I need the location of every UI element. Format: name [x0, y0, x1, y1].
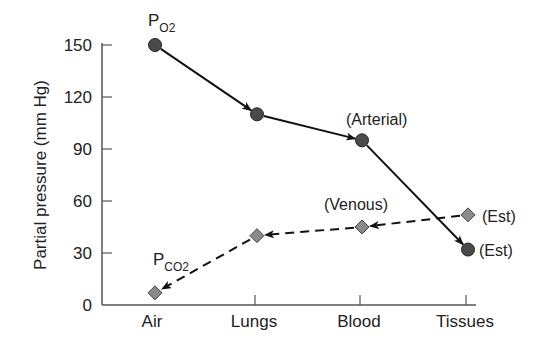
- po2-point: [251, 108, 264, 121]
- po2-point: [462, 243, 475, 256]
- pco2-point: [250, 229, 264, 243]
- po2-point: [149, 39, 162, 52]
- y-tick-label: 150: [64, 36, 92, 55]
- venous-annotation: (Venous): [324, 196, 388, 213]
- x-tick-label: Blood: [337, 312, 380, 331]
- x-tick-label: Tissues: [436, 312, 494, 331]
- po2-point: [356, 134, 369, 147]
- arterial-annotation: (Arterial): [346, 111, 407, 128]
- pco2-point: [461, 208, 475, 222]
- y-tick-label: 60: [73, 192, 92, 211]
- po2-series-label: PO2: [148, 11, 176, 35]
- pco2-point: [355, 220, 369, 234]
- pco2-series-label: PCO2: [153, 250, 189, 274]
- y-tick-label: 90: [73, 140, 92, 159]
- y-tick-label: 30: [73, 244, 92, 263]
- partial-pressure-chart: Partial pressure (mm Hg) 0306090120150 A…: [0, 0, 548, 355]
- y-tick-label: 0: [83, 296, 92, 315]
- series-pco2: [148, 208, 475, 300]
- po2-est-annotation: (Est): [479, 242, 513, 259]
- x-ticks: AirLungsBloodTissues: [142, 295, 494, 331]
- y-tick-label: 120: [64, 88, 92, 107]
- pco2-point: [148, 286, 162, 300]
- x-tick-label: Air: [142, 312, 163, 331]
- pco2-est-annotation: (Est): [482, 208, 516, 225]
- series-po2: [149, 39, 475, 257]
- y-ticks: 0306090120150: [64, 36, 112, 315]
- x-tick-label: Lungs: [231, 312, 277, 331]
- y-axis-label: Partial pressure (mm Hg): [31, 80, 50, 270]
